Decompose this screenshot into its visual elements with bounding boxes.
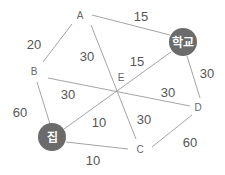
home-label: 집 (47, 130, 58, 145)
node-a-label: A (77, 10, 84, 21)
node-b-label: B (31, 66, 38, 77)
edge-b-home (37, 82, 50, 124)
weight-b-home: 60 (13, 105, 27, 120)
edge-school-d (187, 56, 200, 98)
weight-c-d: 60 (183, 135, 197, 150)
node-e-label: E (118, 72, 125, 83)
weight-e-school: 15 (130, 54, 144, 69)
weight-home-e: 10 (92, 115, 106, 130)
school-label: 학교 (172, 35, 194, 50)
graph-diagram: 학교 집 A B C D E 15 20 30 15 30 30 30 60 1… (0, 0, 225, 175)
weight-e-d: 30 (161, 85, 175, 100)
weight-home-c: 10 (86, 153, 100, 168)
weight-a-b: 20 (27, 37, 41, 52)
weight-b-e: 30 (61, 87, 75, 102)
edge-home-c (66, 142, 128, 149)
weight-school-d: 30 (200, 66, 214, 81)
node-c-label: C (136, 144, 143, 155)
node-school: 학교 (169, 28, 197, 56)
weight-a-e: 30 (80, 49, 94, 64)
weight-e-c: 30 (137, 112, 151, 127)
node-d-label: D (194, 102, 201, 113)
edge-a-school (92, 15, 170, 35)
node-home: 집 (38, 123, 66, 151)
edge-a-b (43, 24, 72, 62)
weight-a-school: 15 (134, 9, 148, 24)
